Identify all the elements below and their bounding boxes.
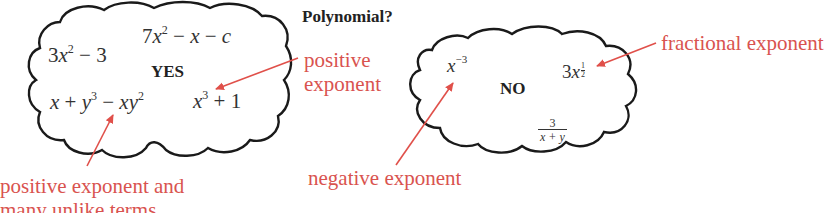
- fractional-exponent: 12: [581, 62, 585, 79]
- expr-7x2-minus-x-minus-c: 7x2 − x − c: [142, 26, 231, 47]
- expr-x-plus-y3-minus-xy2: x + y3 − xy2: [50, 92, 144, 113]
- annotation-fractional-exponent: fractional exponent: [661, 33, 824, 54]
- annotation-positive-exponent-many-unlike-terms: positive exponent and many unlike terms: [0, 174, 184, 213]
- expr-3x-half: 3x12: [562, 62, 585, 89]
- expr-x3-plus-1: x3 + 1: [193, 91, 241, 112]
- expr-3x2-minus-3: 3x2 − 3: [48, 45, 107, 66]
- polynomial-diagram: Polynomial? YES 3x2 − 3 7x2 − x − c x + …: [0, 0, 839, 213]
- expr-3-over-x-plus-y: 3x + y: [538, 110, 567, 143]
- annotation-positive-exponent: positive exponent: [304, 48, 381, 96]
- yes-label: YES: [151, 63, 184, 80]
- diagram-title: Polynomial?: [302, 8, 393, 25]
- no-label: NO: [500, 80, 526, 97]
- expr-x-neg-3: x−3: [447, 56, 467, 75]
- annotation-negative-exponent: negative exponent: [308, 168, 461, 189]
